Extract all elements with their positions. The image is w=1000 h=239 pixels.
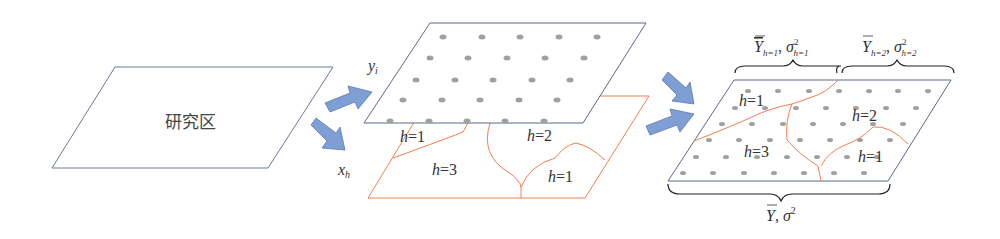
result-label-h3: h=3 xyxy=(744,143,769,160)
brace-bottom-icon xyxy=(668,184,890,201)
strata-var-label: xh xyxy=(337,161,350,180)
brace-top-right-icon xyxy=(842,60,954,73)
arrow-samples-to-result-icon xyxy=(662,72,694,104)
stratum2-estimate-label: Yh=2, σ2h=2 xyxy=(862,37,917,58)
overall-estimate-label: Y, σ2 xyxy=(766,205,796,224)
result-label-h1-left: h=1 xyxy=(739,92,764,109)
strata-label-h3: h=3 xyxy=(432,161,457,178)
stratified-sampling-diagram: 研究区 yi xh h=1 h=2 h=3 h=1 xyxy=(0,0,1000,239)
arrow-strata-to-result-icon xyxy=(646,109,694,135)
arrow-to-samples-icon xyxy=(325,86,372,112)
study-area: 研究区 xyxy=(52,67,333,168)
result-layer: h=1 h=2 h=3 h=1 xyxy=(668,80,951,181)
strata-label-h1-left: h=1 xyxy=(400,128,425,145)
arrow-to-strata-icon xyxy=(311,118,345,150)
stratum1-estimate-label: Yh=1, σ2h=1 xyxy=(754,37,808,58)
result-label-h1-right: h=1 xyxy=(858,148,883,165)
study-area-label: 研究区 xyxy=(165,112,216,132)
strata-label-h1-right: h=1 xyxy=(548,168,573,185)
result-label-h2: h=2 xyxy=(852,107,877,124)
strata-label-h2: h=2 xyxy=(527,127,552,144)
sample-var-label: yi xyxy=(366,57,378,76)
brace-top-left-icon xyxy=(735,60,841,73)
